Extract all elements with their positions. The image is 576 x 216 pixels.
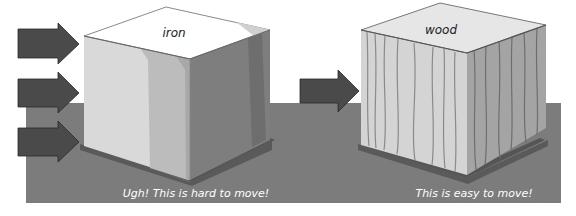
arrow-icon <box>18 23 79 64</box>
iron-label: iron <box>162 26 185 40</box>
push-arrows-left <box>18 23 79 162</box>
wood-label: wood <box>425 23 457 37</box>
friction-diagram: iron <box>0 0 576 216</box>
wood-caption: This is easy to move! <box>415 187 532 200</box>
iron-caption: Ugh! This is hard to move! <box>123 187 270 200</box>
